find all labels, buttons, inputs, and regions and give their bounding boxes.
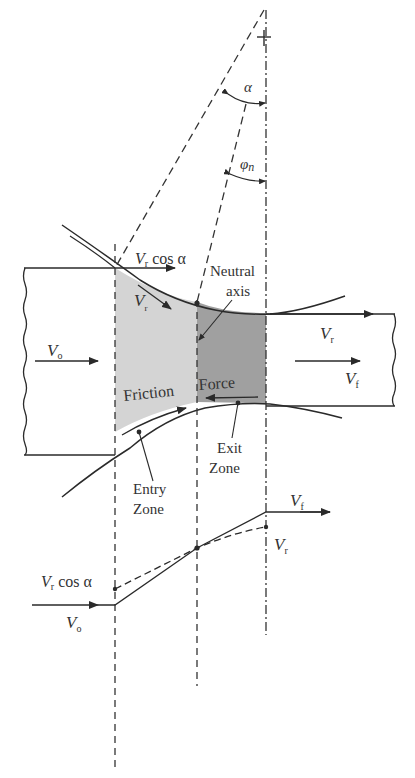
exit-zone-label-1: Exit [217, 440, 243, 456]
plot-vf-label: Vf [290, 491, 304, 512]
alpha-label: α [244, 79, 253, 95]
phi-n-label: φn [240, 156, 254, 174]
plot-vr-cos-alpha-label: Vr cos α [41, 573, 92, 592]
entry-zone-fill [115, 268, 197, 432]
velocity-plot [32, 512, 330, 605]
entry-zone-label-1: Entry [133, 481, 167, 497]
neutral-axis-label-1: Neutral [210, 263, 255, 279]
neutral-axis-label-2: axis [226, 283, 250, 299]
phi-arc [230, 174, 265, 181]
rolling-diagram: α φn Vr cos α Vr Neutral axis Vo Vr Vf F… [0, 0, 415, 778]
strip-velocity-curve [98, 512, 330, 605]
force-label: Force [198, 373, 236, 393]
roll-velocity-curve [115, 527, 266, 589]
exit-zone-label-2: Zone [209, 460, 240, 476]
top-roll-contour [62, 225, 345, 314]
exit-zone-leader [232, 403, 238, 438]
roll-center-mark [257, 30, 271, 46]
plot-vr-label: Vr [274, 535, 288, 556]
alpha-arc [228, 94, 265, 104]
plot-v0-label: Vo [66, 613, 81, 634]
entry-zone-leader [139, 432, 153, 481]
vr-cos-alpha-label: Vr cos α [135, 250, 186, 269]
v0-label: Vo [47, 341, 62, 361]
bottom-roll-contour [62, 404, 342, 498]
entry-zone-label-2: Zone [133, 501, 164, 517]
vr-exit-label: Vr [320, 324, 334, 345]
vf-label: Vf [345, 369, 359, 390]
